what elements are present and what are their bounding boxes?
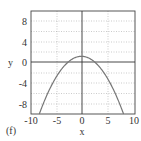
panel-label: (f)	[6, 125, 16, 137]
y-axis-label: y	[8, 57, 13, 68]
svg-text:-10: -10	[24, 115, 37, 126]
svg-text:5: 5	[106, 115, 111, 126]
svg-text:10: 10	[129, 115, 139, 126]
x-tick-labels: -10 -5 0 5 10	[24, 115, 139, 126]
svg-text:-4: -4	[19, 78, 27, 89]
svg-text:0: 0	[80, 115, 85, 126]
chart: 8 4 0 -4 -8 y -10 -5 0 5 10 x (f)	[0, 0, 141, 141]
svg-text:8: 8	[22, 16, 27, 27]
x-axis-label: x	[80, 126, 85, 137]
y-tick-labels: 8 4 0 -4 -8	[19, 16, 27, 110]
plot-frame	[31, 11, 135, 114]
svg-text:0: 0	[22, 57, 27, 68]
svg-text:-5: -5	[53, 115, 61, 126]
svg-text:4: 4	[22, 37, 27, 48]
parabola-curve	[39, 56, 123, 114]
grid	[31, 11, 135, 114]
svg-text:-8: -8	[19, 99, 27, 110]
